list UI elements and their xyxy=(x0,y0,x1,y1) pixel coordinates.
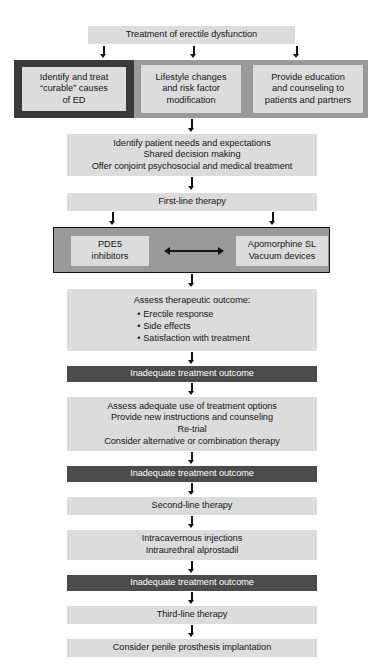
band-cell-provide-education: Provide education and counseling to pati… xyxy=(248,60,368,118)
arrow-assess-to-inadequate-1 xyxy=(191,352,192,365)
node-needs-box: Identify patient needs and expectations … xyxy=(67,134,317,176)
node-first-line-therapy: First-line therapy xyxy=(67,193,317,211)
arrow-first-line-to-apomorphine xyxy=(272,212,273,226)
node-third-line-therapy: Third-line therapy xyxy=(67,606,317,624)
band-cell-line: and risk factor xyxy=(162,83,220,95)
reassess-line: Provide new instructions and counseling xyxy=(111,412,273,424)
reassess-line: Consider alternative or combination ther… xyxy=(104,436,280,448)
inadequate-label: Inadequate treatment outcome xyxy=(130,577,254,589)
arrow-title-to-cell-2 xyxy=(193,46,194,59)
node-apomorphine-vacuum: Apomorphine SL Vacuum devices xyxy=(236,236,328,266)
apomorphine-line: Vacuum devices xyxy=(249,251,316,263)
node-therapy-band: PDE5 inhibitors Apomorphine SL Vacuum de… xyxy=(53,227,330,273)
arrow-needs-to-first-line xyxy=(191,177,192,191)
node-first-band: Identify and treat “curable” causes of E… xyxy=(14,60,368,118)
bullet-label: Erectile response xyxy=(143,309,213,319)
needs-line: Offer conjoint psychosocial and medical … xyxy=(92,161,293,173)
band-cell-lifestyle-changes-inner: Lifestyle changes and risk factor modifi… xyxy=(141,65,241,113)
arrow-reassess-to-inadequate-2 xyxy=(191,452,192,465)
node-reassess-options: Assess adequate use of treatment options… xyxy=(67,397,317,451)
bullet-icon: • xyxy=(134,332,143,344)
band-cell-line: “curable” causes xyxy=(40,83,108,95)
prosthesis-label: Consider penile prosthesis implantation xyxy=(113,642,271,654)
needs-line: Identify patient needs and expectations xyxy=(113,138,270,150)
arrow-therapy-to-assess xyxy=(191,274,192,288)
bullet-label: Side effects xyxy=(143,321,190,331)
arrow-injections-to-inadequate-3 xyxy=(191,561,192,574)
apomorphine-line: Apomorphine SL xyxy=(248,239,316,251)
node-inadequate-outcome-1: Inadequate treatment outcome xyxy=(67,366,317,382)
flowchart-canvas: Treatment of erectile dysfunction Identi… xyxy=(0,0,382,672)
pde5-line: inhibitors xyxy=(92,251,129,263)
node-title-box: Treatment of erectile dysfunction xyxy=(88,26,295,44)
arrow-title-to-cell-1 xyxy=(103,46,104,59)
bullet-icon: • xyxy=(134,320,143,332)
inadequate-label: Inadequate treatment outcome xyxy=(130,368,254,380)
inadequate-label: Inadequate treatment outcome xyxy=(130,468,254,480)
node-assess-outcome: Assess therapeutic outcome: •Erectile re… xyxy=(67,289,317,351)
node-title-label: Treatment of erectile dysfunction xyxy=(126,29,257,41)
arrow-first-line-to-pde5 xyxy=(112,212,113,226)
node-inadequate-outcome-3: Inadequate treatment outcome xyxy=(67,575,317,591)
arrow-band-to-needs xyxy=(191,119,192,133)
arrow-inadequate-3-to-third-line xyxy=(191,592,192,605)
node-prosthesis-implantation: Consider penile prosthesis implantation xyxy=(67,639,317,657)
injections-line: Intraurethral alprostadil xyxy=(146,545,239,557)
pde5-line: PDE5 xyxy=(98,239,122,251)
assess-bullet-list: •Erectile response •Side effects •Satisf… xyxy=(134,308,249,345)
band-cell-identify-treat: Identify and treat “curable” causes of E… xyxy=(14,60,134,118)
second-line-label: Second-line therapy xyxy=(152,500,233,512)
band-cell-line: and counseling to xyxy=(272,83,344,95)
band-cell-identify-treat-inner: Identify and treat “curable” causes of E… xyxy=(22,67,126,111)
band-cell-line: Lifestyle changes xyxy=(156,72,227,84)
arrow-inadequate-1-to-reassess xyxy=(191,383,192,396)
arrow-third-line-to-prosthesis xyxy=(191,625,192,638)
bullet-label: Satisfaction with treatment xyxy=(143,333,249,343)
list-item: •Satisfaction with treatment xyxy=(134,332,249,344)
assess-heading: Assess therapeutic outcome: xyxy=(134,295,251,307)
first-line-label: First-line therapy xyxy=(158,196,226,208)
node-pde5-inhibitors: PDE5 inhibitors xyxy=(71,236,149,266)
band-cell-line: of ED xyxy=(63,95,86,107)
band-cell-line: patients and partners xyxy=(265,95,351,107)
arrow-second-line-to-injections xyxy=(191,516,192,529)
band-cell-line: modification xyxy=(166,95,215,107)
arrow-title-to-cell-3 xyxy=(296,46,297,59)
node-second-line-therapy: Second-line therapy xyxy=(67,497,317,515)
list-item: •Erectile response xyxy=(134,308,249,320)
band-cell-provide-education-inner: Provide education and counseling to pati… xyxy=(253,65,363,113)
node-inadequate-outcome-2: Inadequate treatment outcome xyxy=(67,466,317,482)
third-line-label: Third-line therapy xyxy=(157,609,228,621)
arrow-inadequate-2-to-second-line xyxy=(191,483,192,496)
band-cell-line: Provide education xyxy=(271,72,345,84)
reassess-line: Re-trial xyxy=(177,424,206,436)
reassess-line: Assess adequate use of treatment options xyxy=(107,401,277,413)
bullet-icon: • xyxy=(134,308,143,320)
injections-line: Intracavernous injections xyxy=(142,533,242,545)
node-injections: Intracavernous injections Intraurethral … xyxy=(67,530,317,560)
band-cell-line: Identify and treat xyxy=(40,72,108,84)
list-item: •Side effects xyxy=(134,320,249,332)
needs-line: Shared decision making xyxy=(144,149,241,161)
band-cell-lifestyle-changes: Lifestyle changes and risk factor modifi… xyxy=(134,60,248,118)
